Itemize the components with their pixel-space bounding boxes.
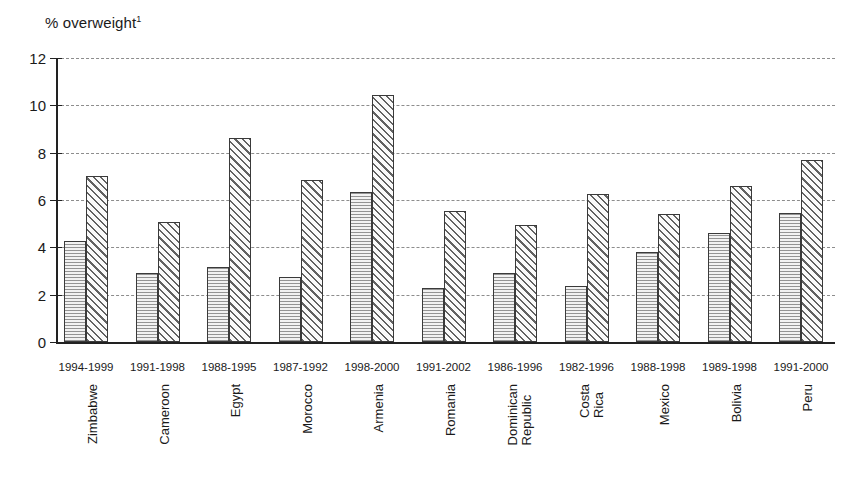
country-label: Cameroon [158, 384, 172, 445]
y-tick-mark [50, 153, 62, 154]
bar [801, 160, 823, 342]
country-label: Morocco [301, 384, 315, 434]
country-label-line: Dominican [506, 384, 520, 445]
country-label-line: Mexico [658, 384, 672, 425]
bar [86, 176, 108, 342]
country-label: DominicanRepublic [506, 384, 534, 445]
country-label: Zimbabwe [86, 384, 100, 444]
period-label: 1998-2000 [345, 361, 400, 373]
bar [301, 180, 323, 342]
bar [779, 213, 801, 342]
country-label: Armenia [372, 384, 386, 432]
period-label: 1991-1998 [130, 361, 185, 373]
plot-area: 024681012 [56, 58, 835, 342]
country-label: CostaRica [578, 384, 606, 418]
bar [422, 288, 444, 342]
overweight-bar-chart: % overweight1 024681012 1994-19991991-19… [0, 0, 863, 487]
country-label-line: Armenia [372, 384, 386, 432]
x-axis-baseline [56, 342, 835, 344]
country-label-line: Zimbabwe [86, 384, 100, 444]
bar-group [64, 58, 108, 342]
y-axis-title-footnote-marker: 1 [136, 14, 141, 24]
country-label: Peru [801, 384, 815, 411]
bar-group [279, 58, 323, 342]
bar [372, 95, 394, 342]
bar-group [708, 58, 752, 342]
country-label-line: Bolivia [730, 384, 744, 422]
bar-group [779, 58, 823, 342]
bar [229, 138, 251, 342]
y-tick-label: 4 [38, 239, 46, 256]
country-label-line: Egypt [229, 384, 243, 417]
period-label: 1991-2000 [774, 361, 829, 373]
bar [136, 273, 158, 342]
bar [658, 214, 680, 342]
y-tick-label: 2 [38, 286, 46, 303]
bar [493, 273, 515, 342]
country-label-line: Peru [801, 384, 815, 411]
y-tick-mark [50, 342, 62, 343]
period-label: 1982-1996 [559, 361, 614, 373]
bar-group [207, 58, 251, 342]
y-tick-mark [50, 105, 62, 106]
y-tick-label: 12 [29, 50, 46, 67]
country-label-line: Morocco [301, 384, 315, 434]
country-label: Romania [444, 384, 458, 436]
bar-group [136, 58, 180, 342]
y-tick-label: 10 [29, 97, 46, 114]
bar [64, 241, 86, 342]
period-label: 1986-1996 [488, 361, 543, 373]
bar [279, 277, 301, 342]
bar [730, 186, 752, 342]
period-label: 1987-1992 [273, 361, 328, 373]
bar-group [350, 58, 394, 342]
bar [350, 192, 372, 342]
y-axis-title-text: % overweight [45, 14, 136, 31]
period-label: 1991-2002 [416, 361, 471, 373]
y-tick-label: 8 [38, 144, 46, 161]
bar [158, 222, 180, 342]
bar [636, 252, 658, 342]
period-label: 1994-1999 [59, 361, 114, 373]
period-label: 1988-1998 [631, 361, 686, 373]
bar [444, 211, 466, 342]
period-label: 1988-1995 [202, 361, 257, 373]
bar-group [493, 58, 537, 342]
bar [515, 225, 537, 342]
bar [565, 286, 587, 342]
y-tick-mark [50, 58, 62, 59]
bar [708, 233, 730, 342]
bar [207, 267, 229, 342]
country-label-line: Rica [591, 384, 605, 418]
country-label: Bolivia [730, 384, 744, 422]
y-axis-title: % overweight1 [45, 14, 141, 31]
period-label: 1989-1998 [702, 361, 757, 373]
country-label-line: Romania [444, 384, 458, 436]
y-tick-mark [50, 200, 62, 201]
country-label-line: Cameroon [158, 384, 172, 445]
bar-group [565, 58, 609, 342]
country-label-line: Costa [578, 384, 592, 418]
y-tick-mark [50, 295, 62, 296]
y-tick-label: 0 [38, 334, 46, 351]
y-tick-mark [50, 247, 62, 248]
bar-group [422, 58, 466, 342]
country-label-line: Republic [520, 384, 534, 445]
y-tick-label: 6 [38, 192, 46, 209]
bar-group [636, 58, 680, 342]
country-label: Mexico [658, 384, 672, 425]
country-label: Egypt [229, 384, 243, 417]
bar [587, 194, 609, 342]
